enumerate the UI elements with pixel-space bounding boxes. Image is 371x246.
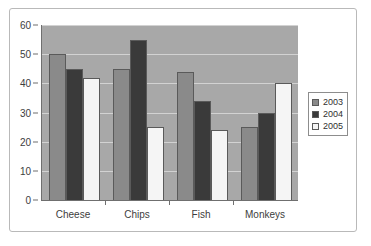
x-axis-category-chips: Chips — [105, 201, 169, 223]
legend-label: 2003 — [323, 98, 343, 107]
x-axis-tick-mark — [233, 201, 234, 205]
bar-chips-2003[interactable] — [113, 69, 130, 200]
bar-chips-2004[interactable] — [130, 40, 147, 200]
y-axis: 0102030405060 — [0, 0, 41, 202]
legend-label: 2005 — [323, 122, 343, 131]
legend-swatch-icon — [312, 111, 319, 118]
y-axis-tick-mark — [33, 141, 38, 142]
bar-chart: 0102030405060 CheeseChipsFishMonkeys 200… — [0, 0, 371, 246]
y-axis-tick-label: 20 — [20, 136, 31, 147]
bar-monkeys-2005[interactable] — [275, 83, 292, 200]
y-axis-tick-mark — [33, 54, 38, 55]
y-axis-tick-label: 40 — [20, 78, 31, 89]
y-axis-tick-label: 0 — [25, 195, 31, 206]
plot-area — [41, 25, 298, 201]
legend-item-2004[interactable]: 2004 — [312, 108, 343, 120]
bar-chips-2005[interactable] — [147, 127, 164, 200]
x-axis-category-fish: Fish — [169, 201, 233, 223]
bar-group-chips — [106, 25, 170, 200]
bar-group-cheese — [42, 25, 106, 200]
bar-cheese-2003[interactable] — [49, 54, 66, 200]
legend-swatch-icon — [312, 123, 319, 130]
bar-fish-2003[interactable] — [177, 72, 194, 200]
x-axis-tick-mark — [105, 201, 106, 205]
legend-label: 2004 — [323, 110, 343, 119]
x-axis-tick-mark — [169, 201, 170, 205]
y-axis-tick-mark — [33, 112, 38, 113]
legend-swatch-icon — [312, 99, 319, 106]
bar-fish-2004[interactable] — [194, 101, 211, 200]
bar-cheese-2004[interactable] — [66, 69, 83, 200]
legend-item-2005[interactable]: 2005 — [312, 120, 343, 132]
x-axis: CheeseChipsFishMonkeys — [41, 201, 297, 223]
y-axis-tick-label: 30 — [20, 107, 31, 118]
bar-monkeys-2003[interactable] — [241, 127, 258, 200]
x-axis-category-monkeys: Monkeys — [233, 201, 297, 223]
bar-fish-2005[interactable] — [211, 130, 228, 200]
bar-monkeys-2004[interactable] — [258, 113, 275, 201]
y-axis-tick-label: 60 — [20, 20, 31, 31]
y-axis-tick-label: 50 — [20, 49, 31, 60]
bar-group-monkeys — [234, 25, 298, 200]
bar-cheese-2005[interactable] — [83, 78, 100, 201]
y-axis-tick-mark — [33, 25, 38, 26]
chart-legend: 200320042005 — [308, 92, 348, 136]
x-axis-category-cheese: Cheese — [41, 201, 105, 223]
legend-item-2003[interactable]: 2003 — [312, 96, 343, 108]
y-axis-tick-mark — [33, 200, 38, 201]
y-axis-tick-mark — [33, 170, 38, 171]
y-axis-tick-mark — [33, 83, 38, 84]
y-axis-tick-label: 10 — [20, 165, 31, 176]
bar-group-fish — [170, 25, 234, 200]
bars-layer — [42, 25, 298, 200]
